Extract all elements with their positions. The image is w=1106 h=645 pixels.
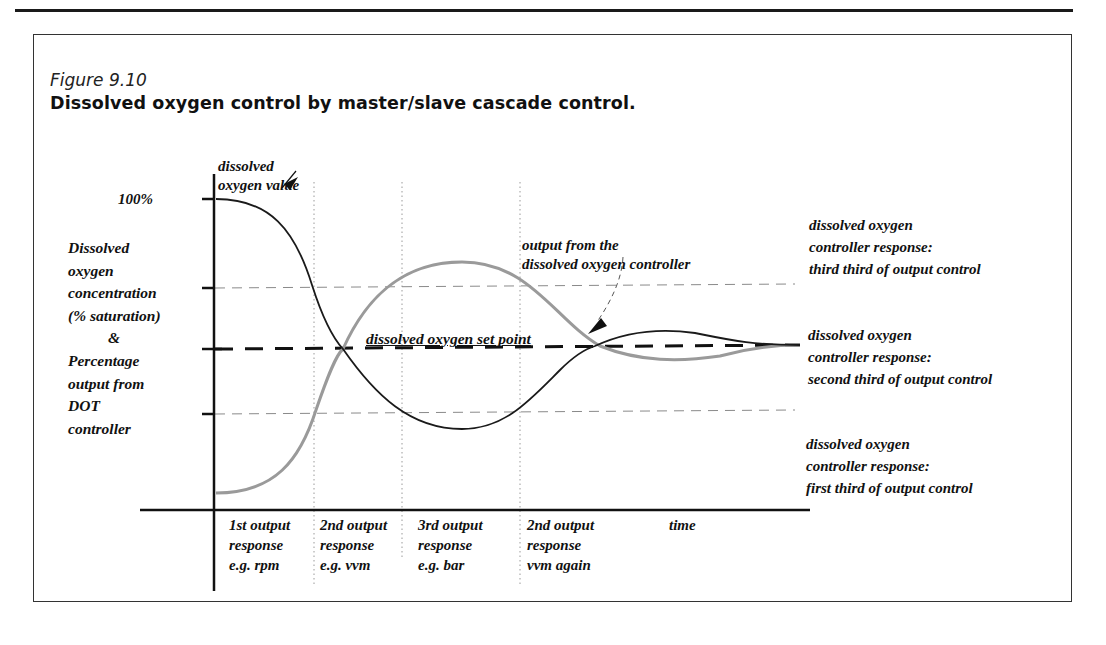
label-line: controller response: bbox=[806, 455, 973, 477]
label-line: response bbox=[418, 535, 483, 555]
label-line: dissolved oxygen bbox=[806, 433, 973, 455]
annotation-line: dissolved oxygen controller bbox=[522, 255, 690, 274]
annotation-line: dissolved bbox=[218, 157, 299, 176]
y-label-line: Percentage bbox=[68, 350, 161, 373]
label-line: first third of output control bbox=[806, 477, 973, 499]
label-line: 1st output bbox=[229, 515, 290, 535]
y-axis-label: Dissolved oxygen concentration (% satura… bbox=[68, 237, 161, 440]
y-label-line: (% saturation) bbox=[68, 305, 161, 328]
label-line: controller response: bbox=[808, 346, 992, 368]
x-label-phase-2: 2nd output response e.g. vvm bbox=[320, 515, 387, 575]
x-label-phase-3: 3rd output response e.g. bar bbox=[418, 515, 483, 575]
y-label-line: Dissolved bbox=[68, 237, 161, 260]
annotation-line: oxygen value bbox=[218, 176, 299, 195]
set-point-label: dissolved oxygen set point bbox=[366, 330, 531, 348]
x-axis-title: time bbox=[669, 515, 696, 535]
label-line: response bbox=[527, 535, 594, 555]
y-label-line: concentration bbox=[68, 282, 161, 305]
label-line: response bbox=[229, 535, 290, 555]
second-third-label: dissolved oxygen controller response: se… bbox=[808, 324, 992, 390]
label-line: e.g. bar bbox=[418, 555, 483, 575]
y-label-line: DOT bbox=[68, 395, 161, 418]
label-line: 2nd output bbox=[320, 515, 387, 535]
y-label-line: oxygen bbox=[68, 260, 161, 283]
label-line: 2nd output bbox=[527, 515, 594, 535]
label-line: third third of output control bbox=[809, 258, 981, 280]
label-line: time bbox=[669, 515, 696, 535]
x-label-phase-4: 2nd output response vvm again bbox=[527, 515, 594, 575]
lower-third-line bbox=[215, 410, 795, 414]
controller-output-annotation: output from the dissolved oxygen control… bbox=[522, 236, 690, 274]
do-value-annotation: dissolved oxygen value bbox=[218, 157, 299, 195]
label-line: second third of output control bbox=[808, 368, 992, 390]
label-line: vvm again bbox=[527, 555, 594, 575]
dissolved-oxygen-curve bbox=[216, 199, 800, 429]
y-label-line: & bbox=[68, 327, 161, 350]
label-line: e.g. rpm bbox=[229, 555, 290, 575]
y-label-line: controller bbox=[68, 418, 161, 441]
y-label-line: output from bbox=[68, 373, 161, 396]
threshold-lines bbox=[215, 284, 795, 414]
x-label-phase-1: 1st output response e.g. rpm bbox=[229, 515, 290, 575]
label-line: dissolved oxygen bbox=[809, 214, 981, 236]
controller-output-curve bbox=[216, 262, 800, 493]
upper-third-line bbox=[215, 284, 795, 288]
label-line: 3rd output bbox=[418, 515, 483, 535]
label-line: dissolved oxygen bbox=[808, 324, 992, 346]
label-line: response bbox=[320, 535, 387, 555]
third-third-label: dissolved oxygen controller response: th… bbox=[809, 214, 981, 280]
annotation-line: output from the bbox=[522, 236, 690, 255]
label-line: e.g. vvm bbox=[320, 555, 387, 575]
label-line: controller response: bbox=[809, 236, 981, 258]
tick-label-100: 100% bbox=[118, 190, 153, 208]
first-third-label: dissolved oxygen controller response: fi… bbox=[806, 433, 973, 499]
